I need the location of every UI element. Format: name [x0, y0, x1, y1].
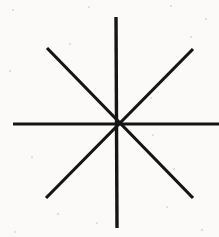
asterisk-figure [0, 0, 219, 237]
paper-background [0, 0, 219, 237]
figure-canvas-container [0, 0, 219, 237]
